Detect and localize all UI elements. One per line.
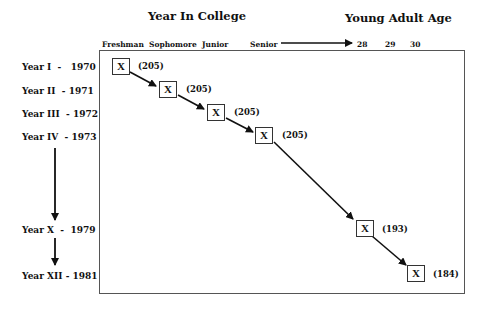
node-count-1973: (205) <box>282 130 308 140</box>
node-count-1979: (193) <box>382 224 408 234</box>
node-box-age30-1981: X <box>407 265 425 282</box>
node-box-senior-1973: X <box>255 127 273 144</box>
node-box-junior-1972: X <box>207 104 225 121</box>
node-box-freshman-1970: X <box>112 58 130 75</box>
node-box-sophomore-1971: X <box>159 81 177 98</box>
node-box-age28-1979: X <box>356 220 374 237</box>
node-count-1971: (205) <box>186 84 212 94</box>
node-count-1981: (184) <box>433 269 459 279</box>
node-count-1970: (205) <box>138 61 164 71</box>
node-count-1972: (205) <box>234 107 260 117</box>
